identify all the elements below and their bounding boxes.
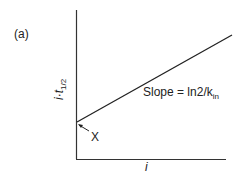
slope-annotation-text: Slope = ln2/k [143, 85, 213, 99]
slope-annotation: Slope = ln2/kin [143, 86, 219, 103]
y-axis-label-subscript: 1/2 [59, 79, 68, 90]
x-axis-label: i [145, 161, 148, 173]
data-line [77, 35, 232, 122]
panel-label: (a) [14, 28, 29, 40]
y-axis-label: i·t1/2 [52, 79, 68, 100]
intercept-label: X [91, 131, 99, 143]
y-axis-label-text: i·t [52, 90, 66, 100]
slope-annotation-subscript: in [213, 92, 219, 101]
